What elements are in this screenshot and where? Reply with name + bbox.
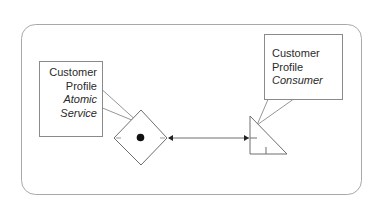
service-dot-icon — [137, 134, 145, 142]
consumer-triangle[interactable] — [250, 116, 287, 154]
label-line-italic: Service — [39, 107, 97, 121]
label-line: Profile — [272, 61, 323, 75]
bidirectional-connector[interactable] — [168, 135, 249, 141]
consumer-label: Customer Profile Consumer — [272, 47, 323, 88]
label-line: Customer — [39, 66, 97, 80]
label-line: Customer — [272, 47, 323, 61]
label-line: Profile — [39, 80, 97, 94]
arrowhead-left-icon — [168, 135, 173, 141]
label-line-italic: Consumer — [272, 74, 323, 88]
diagram-canvas: Customer Profile Atomic Service Customer… — [0, 0, 378, 217]
atomic-service-diamond[interactable] — [114, 110, 167, 165]
label-line-italic: Atomic — [39, 93, 97, 107]
atomic-service-label: Customer Profile Atomic Service — [39, 66, 97, 120]
arrowhead-right-icon — [244, 135, 249, 141]
